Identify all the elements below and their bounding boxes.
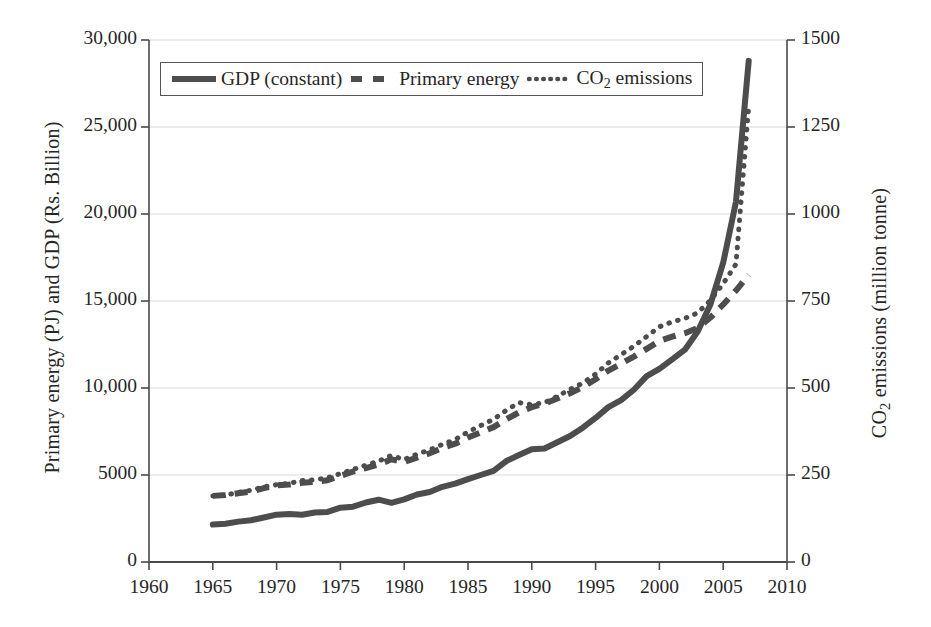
y-axis-left-tick-20000: 20,000 [19, 201, 137, 223]
y-axis-left-tick-5000: 5000 [19, 462, 137, 484]
y-axis-right-tick-1500: 1500 [801, 27, 891, 49]
dashed-line-swatch [349, 72, 395, 86]
y-axis-right-tick-750: 750 [801, 288, 891, 310]
solid-line-swatch [171, 72, 217, 86]
y-axis-right-title-subscript: 2 [877, 403, 893, 410]
y-axis-right-tick-0: 0 [801, 549, 891, 571]
x-axis-tick-2010: 2010 [742, 576, 832, 598]
y-axis-right-tick-1000: 1000 [801, 201, 891, 223]
y-axis-left-tick-0: 0 [19, 549, 137, 571]
legend-label-gdp: GDP (constant) [221, 68, 342, 90]
chart-legend: GDP (constant) Primary energy CO2 emissi… [160, 62, 703, 96]
y-axis-left-tick-10000: 10,000 [19, 375, 137, 397]
y-axis-left-tick-25000: 25,000 [19, 114, 137, 136]
gridlines [149, 40, 787, 475]
dotted-line-swatch [527, 72, 573, 86]
y-axis-left-tick-15000: 15,000 [19, 288, 137, 310]
legend-entry-co2: CO2 emissions [527, 67, 693, 92]
legend-label-co2-suffix: emissions [611, 67, 693, 88]
legend-label-co2-prefix: CO [577, 67, 604, 88]
y-axis-right-tick-1250: 1250 [801, 114, 891, 136]
legend-entry-gdp: GDP (constant) [171, 68, 342, 90]
y-axis-right-title-prefix: CO [868, 410, 890, 438]
y-axis-right-tick-250: 250 [801, 462, 891, 484]
y-axis-left-tick-30000: 30,000 [19, 27, 137, 49]
legend-entry-primary-energy: Primary energy [349, 68, 519, 90]
legend-label-primary-energy: Primary energy [399, 68, 519, 90]
chart-figure: Primary energy (PJ) and GDP (Rs. Billion… [0, 0, 931, 627]
legend-label-co2: CO2 emissions [577, 67, 693, 92]
series-line-gdp-constant [213, 61, 749, 525]
y-axis-right-tick-500: 500 [801, 375, 891, 397]
series-line-primary-energy [213, 275, 749, 496]
data-series-layer [213, 61, 749, 525]
legend-label-co2-subscript: 2 [604, 74, 611, 90]
